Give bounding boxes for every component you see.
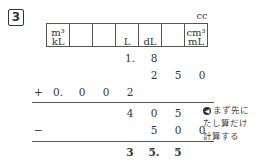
digit-cell: 5 bbox=[166, 146, 190, 158]
operator: − bbox=[34, 124, 43, 136]
unit-col-ml: cm³mL bbox=[185, 24, 208, 47]
unit-col-2 bbox=[70, 24, 93, 47]
hint-note: ◀まず先に たし算だけ 計算する bbox=[203, 104, 249, 143]
digit-cell: 2 bbox=[118, 86, 142, 98]
digit-cell: 5 bbox=[142, 124, 166, 136]
digit-cell: 0 bbox=[142, 107, 166, 119]
digit-cell: 4 bbox=[118, 107, 142, 119]
result-line bbox=[32, 141, 214, 142]
digit-cell: 3 bbox=[118, 146, 142, 158]
calc-row: +0.002 bbox=[0, 86, 267, 102]
digit-cell: 8 bbox=[142, 52, 166, 64]
unit-col-l: L bbox=[116, 24, 139, 47]
calc-row: 1.8 bbox=[0, 52, 267, 68]
unit-col-3 bbox=[93, 24, 116, 47]
cc-label: cc bbox=[190, 10, 214, 21]
unit-table: m³kL L dL cm³mL bbox=[46, 23, 208, 47]
digit-cell: 5 bbox=[166, 107, 190, 119]
digit-cell: 0. bbox=[46, 86, 70, 98]
calc-row: 250 bbox=[0, 69, 267, 85]
digit-cell: 5. bbox=[142, 146, 166, 158]
circle-arrow-icon: ◀ bbox=[203, 107, 211, 115]
calc-row: 35.5 bbox=[0, 146, 267, 162]
unit-col-kl: m³kL bbox=[47, 24, 70, 47]
unit-col-6 bbox=[162, 24, 185, 47]
digit-cell: 0 bbox=[70, 86, 94, 98]
digit-cell: 5 bbox=[166, 69, 190, 81]
digit-cell: 0 bbox=[94, 86, 118, 98]
digit-cell: 2 bbox=[142, 69, 166, 81]
digit-cell: 0 bbox=[166, 124, 190, 136]
unit-col-dl: dL bbox=[139, 24, 162, 47]
digit-cell: 0 bbox=[190, 69, 214, 81]
sum-line bbox=[32, 102, 214, 103]
operator: + bbox=[34, 86, 43, 98]
digit-cell: 1. bbox=[118, 52, 142, 64]
problem-number: 3 bbox=[8, 9, 24, 26]
